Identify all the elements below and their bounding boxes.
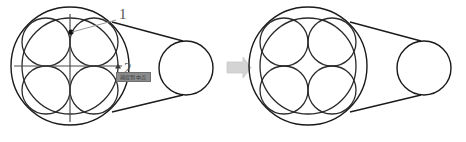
right-figure-group — [249, 7, 451, 125]
callout-1-leader — [72, 20, 116, 32]
right-inner-ring — [260, 18, 356, 114]
callout-label-1: 1 — [119, 6, 127, 22]
left-strand-bottom-right — [70, 66, 118, 114]
snap-tooltip: 捕捉到中点 — [116, 72, 151, 82]
right-pulley-circle — [397, 41, 451, 95]
left-figure-group: 1 2 — [11, 6, 213, 125]
right-belt-tangent-lower — [350, 95, 421, 112]
belt-tangent-lower — [112, 95, 183, 112]
right-strand-top-left — [260, 18, 308, 66]
left-strand-bottom-left — [22, 66, 70, 114]
technical-drawing-svg: 1 2 — [0, 0, 466, 142]
drawing-canvas: 1 2 捕捉到中点 — [0, 0, 466, 142]
right-strand-bottom-right — [308, 66, 356, 114]
left-strand-top-right — [70, 18, 118, 66]
left-strand-top-left — [22, 18, 70, 66]
right-strand-top-right — [308, 18, 356, 66]
right-strand-bottom-left — [260, 66, 308, 114]
left-pulley-circle — [159, 41, 213, 95]
arrow-right-icon — [227, 57, 251, 78]
transition-arrow-group — [227, 57, 251, 78]
